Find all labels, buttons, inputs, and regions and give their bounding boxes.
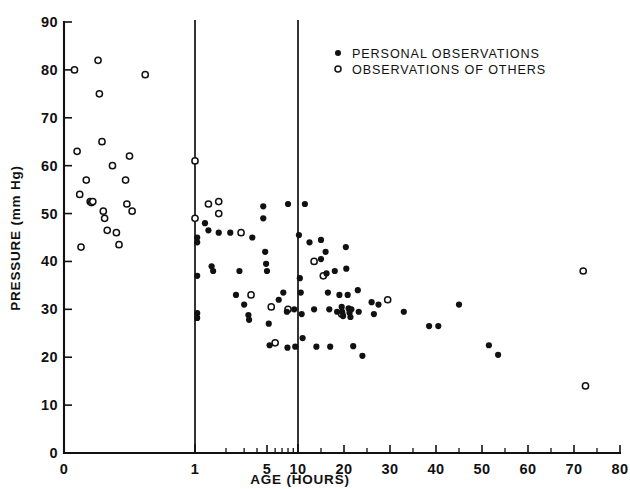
legend: PERSONAL OBSERVATIONS OBSERVATIONS OF OT… bbox=[335, 47, 546, 77]
data-point bbox=[435, 323, 441, 329]
y-tick-group bbox=[64, 22, 72, 453]
legend-label-personal: PERSONAL OBSERVATIONS bbox=[352, 47, 540, 61]
data-point bbox=[336, 292, 342, 298]
data-point bbox=[356, 309, 362, 315]
data-point bbox=[347, 314, 353, 320]
y-tick-label: 50 bbox=[41, 206, 58, 222]
x-tick-label: 30 bbox=[382, 461, 399, 477]
data-point bbox=[268, 304, 274, 310]
data-point bbox=[96, 91, 102, 97]
y-tick-label: 10 bbox=[41, 397, 58, 413]
data-point bbox=[375, 301, 381, 307]
legend-label-others: OBSERVATIONS OF OTHERS bbox=[352, 63, 546, 77]
data-point bbox=[345, 292, 351, 298]
data-point bbox=[318, 237, 324, 243]
x-axis-title: AGE (HOURS) bbox=[250, 472, 350, 487]
data-point bbox=[313, 344, 319, 350]
data-point bbox=[327, 344, 333, 350]
data-point bbox=[311, 258, 317, 264]
data-point bbox=[582, 383, 588, 389]
data-point bbox=[343, 244, 349, 250]
data-point bbox=[249, 234, 255, 240]
x-tick-label: 40 bbox=[428, 461, 445, 477]
data-point bbox=[122, 177, 128, 183]
data-point bbox=[276, 297, 282, 303]
x-tick-group bbox=[64, 444, 620, 453]
data-point bbox=[299, 311, 305, 317]
data-point bbox=[104, 227, 110, 233]
data-point bbox=[292, 344, 298, 350]
data-point bbox=[385, 297, 391, 303]
y-tick-label: 20 bbox=[41, 349, 58, 365]
x-tick-label: 60 bbox=[520, 461, 537, 477]
data-point bbox=[71, 67, 77, 73]
y-tick-label: 90 bbox=[41, 14, 58, 30]
data-point bbox=[285, 201, 291, 207]
x-tick-label: 80 bbox=[612, 461, 629, 477]
chart-canvas: 0102030405060708090 0151020304050607080 … bbox=[0, 0, 630, 489]
data-point bbox=[194, 239, 200, 245]
axes-group bbox=[64, 20, 620, 453]
data-point bbox=[246, 317, 252, 323]
data-point bbox=[113, 230, 119, 236]
data-point bbox=[348, 306, 354, 312]
data-point bbox=[126, 153, 132, 159]
data-point bbox=[192, 215, 198, 221]
data-point bbox=[109, 163, 115, 169]
data-point bbox=[264, 268, 270, 274]
data-point bbox=[216, 230, 222, 236]
data-point bbox=[102, 215, 108, 221]
data-point bbox=[291, 306, 297, 312]
data-point bbox=[284, 345, 290, 351]
data-point bbox=[194, 273, 200, 279]
x-tick-label: 0 bbox=[60, 461, 68, 477]
y-ticklabel-group: 0102030405060708090 bbox=[41, 14, 58, 461]
data-point bbox=[192, 158, 198, 164]
data-point bbox=[302, 201, 308, 207]
data-point bbox=[306, 239, 312, 245]
data-point bbox=[78, 244, 84, 250]
series-observations-of-others bbox=[71, 57, 588, 389]
data-point bbox=[205, 227, 211, 233]
data-point bbox=[300, 335, 306, 341]
data-point bbox=[456, 301, 462, 307]
data-point bbox=[580, 268, 586, 274]
data-point bbox=[233, 292, 239, 298]
legend-marker-open-circle-icon bbox=[335, 66, 341, 72]
data-point bbox=[426, 323, 432, 329]
data-point bbox=[194, 315, 200, 321]
data-point bbox=[236, 268, 242, 274]
data-point bbox=[311, 306, 317, 312]
data-point bbox=[74, 148, 80, 154]
data-point bbox=[216, 210, 222, 216]
data-point bbox=[495, 352, 501, 358]
data-point bbox=[332, 268, 338, 274]
data-point bbox=[284, 309, 290, 315]
data-point bbox=[369, 299, 375, 305]
data-point bbox=[323, 249, 329, 255]
data-point bbox=[77, 191, 83, 197]
data-point bbox=[124, 201, 130, 207]
data-point bbox=[227, 230, 233, 236]
data-point bbox=[486, 342, 492, 348]
x-tick-label: 50 bbox=[474, 461, 491, 477]
data-point bbox=[318, 256, 324, 262]
data-point bbox=[267, 342, 273, 348]
data-point bbox=[248, 292, 254, 298]
data-point bbox=[325, 289, 331, 295]
legend-marker-filled-circle-icon bbox=[335, 50, 341, 56]
data-point bbox=[355, 287, 361, 293]
data-point bbox=[280, 289, 286, 295]
data-point bbox=[100, 208, 106, 214]
data-point bbox=[323, 270, 329, 276]
data-point bbox=[272, 340, 278, 346]
y-axis-title: PRESSURE (mm Hg) bbox=[8, 165, 23, 311]
data-point bbox=[326, 306, 332, 312]
data-point bbox=[343, 266, 349, 272]
data-point bbox=[238, 230, 244, 236]
data-point bbox=[83, 177, 89, 183]
data-point bbox=[401, 309, 407, 315]
data-point bbox=[241, 301, 247, 307]
data-point bbox=[298, 289, 304, 295]
x-tick-label: 1 bbox=[191, 461, 199, 477]
